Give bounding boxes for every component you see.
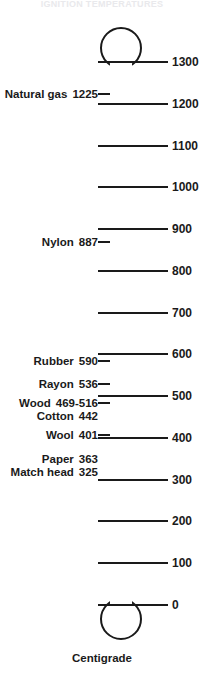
material-value: 325 — [79, 466, 98, 478]
material-value: 442 — [79, 410, 98, 422]
scale-tick — [98, 103, 168, 105]
material-leader-line — [98, 402, 110, 404]
material-name: Paper — [42, 453, 74, 465]
scale-tick-label: 300 — [172, 474, 192, 486]
material-name: Rubber — [34, 355, 74, 367]
material-name: Wood — [19, 397, 51, 409]
material-label: Rubber590 — [34, 355, 98, 367]
scale-tick-label: 900 — [172, 223, 192, 235]
scale-tick-label: 200 — [172, 515, 192, 527]
material-value: 401 — [79, 429, 98, 441]
scale-tick — [98, 270, 168, 272]
scale-tick-label: 100 — [172, 557, 192, 569]
material-value: 363 — [79, 453, 98, 465]
thermometer-figure: IGNITION TEMPERATURES 130012001100100090… — [0, 0, 204, 679]
material-leader-line — [98, 241, 110, 243]
material-value: 1225 — [72, 88, 98, 100]
scale-tick-label: 500 — [172, 390, 192, 402]
material-label: Cotton442 — [37, 410, 98, 422]
material-name: Match head — [11, 466, 74, 478]
figure-title-strip: IGNITION TEMPERATURES — [0, 0, 204, 10]
thermometer-bottom-neck — [110, 597, 132, 609]
material-leader-line — [98, 360, 110, 362]
material-value: 590 — [79, 355, 98, 367]
scale-tick — [98, 145, 168, 147]
scale-tick-label: 1200 — [172, 98, 199, 110]
material-value: 469-516 — [56, 397, 98, 409]
material-value: 536 — [79, 378, 98, 390]
scale-tick-label: 700 — [172, 307, 192, 319]
scale-tick — [98, 395, 168, 397]
scale-tick-label: 1300 — [172, 56, 199, 68]
material-name: Wool — [46, 429, 74, 441]
scale-tick-label: 400 — [172, 432, 192, 444]
scale-tick — [98, 228, 168, 230]
material-value: 887 — [79, 236, 98, 248]
material-name: Natural gas — [5, 88, 68, 100]
material-label: Paper363 — [42, 453, 98, 465]
material-label: Match head325 — [11, 466, 98, 478]
material-leader-line — [98, 383, 110, 385]
scale-tick — [98, 479, 168, 481]
scale-tick-label: 0 — [172, 599, 179, 611]
scale-tick — [98, 604, 168, 606]
scale-tick — [98, 520, 168, 522]
scale-tick-label: 600 — [172, 348, 192, 360]
unit-caption: Centigrade — [0, 652, 204, 665]
scale-tick-label: 1000 — [172, 181, 199, 193]
scale-tick — [98, 186, 168, 188]
material-label: Natural gas1225 — [5, 88, 98, 100]
thermometer-top-neck — [110, 58, 132, 70]
material-name: Cotton — [37, 410, 74, 422]
material-name: Nylon — [42, 236, 74, 248]
scale-tick-label: 1100 — [172, 140, 198, 152]
scale-tick-label: 800 — [172, 265, 192, 277]
scale-tick — [98, 437, 168, 439]
material-name: Rayon — [39, 378, 74, 390]
scale-tick — [98, 61, 168, 63]
material-leader-line — [98, 434, 110, 436]
material-label: Wood469-516 — [19, 397, 98, 409]
material-label: Rayon536 — [39, 378, 98, 390]
scale-tick — [98, 353, 168, 355]
material-leader-line — [98, 93, 110, 95]
scale-tick — [98, 312, 168, 314]
scale-tick — [98, 562, 168, 564]
material-label: Nylon887 — [42, 236, 98, 248]
material-label: Wool401 — [46, 429, 98, 441]
